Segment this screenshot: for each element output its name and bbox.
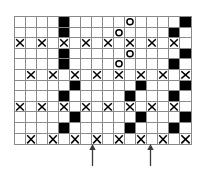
cell-blank[interactable]: [169, 70, 180, 81]
cross-stitch-cell[interactable]: [48, 70, 59, 81]
cross-stitch-cell[interactable]: [180, 70, 191, 81]
cell-blank[interactable]: [180, 38, 191, 49]
cell-blank[interactable]: [92, 28, 103, 39]
cell-blank[interactable]: [70, 17, 81, 28]
filled-square-cell[interactable]: [125, 123, 136, 134]
cell-blank[interactable]: [81, 59, 92, 70]
cell-blank[interactable]: [15, 28, 26, 39]
filled-square-cell[interactable]: [169, 28, 180, 39]
cell-blank[interactable]: [37, 59, 48, 70]
cell-blank[interactable]: [180, 102, 191, 113]
filled-square-cell[interactable]: [180, 49, 191, 60]
cell-blank[interactable]: [26, 102, 37, 113]
cell-blank[interactable]: [147, 123, 158, 134]
cell-blank[interactable]: [125, 59, 136, 70]
cell-blank[interactable]: [70, 49, 81, 60]
cell-blank[interactable]: [92, 38, 103, 49]
cell-blank[interactable]: [92, 17, 103, 28]
cell-blank[interactable]: [92, 91, 103, 102]
cell-blank[interactable]: [114, 123, 125, 134]
cross-stitch-cell[interactable]: [70, 70, 81, 81]
cell-blank[interactable]: [59, 70, 70, 81]
cell-blank[interactable]: [103, 28, 114, 39]
cell-blank[interactable]: [81, 17, 92, 28]
cell-blank[interactable]: [48, 28, 59, 39]
open-circle-cell[interactable]: [114, 59, 125, 70]
cell-blank[interactable]: [15, 91, 26, 102]
cell-blank[interactable]: [158, 91, 169, 102]
cell-blank[interactable]: [147, 91, 158, 102]
cross-stitch-cell[interactable]: [103, 38, 114, 49]
cross-stitch-cell[interactable]: [59, 38, 70, 49]
cell-blank[interactable]: [180, 123, 191, 134]
cell-blank[interactable]: [125, 28, 136, 39]
cell-blank[interactable]: [15, 81, 26, 92]
filled-square-cell[interactable]: [180, 81, 191, 92]
cell-blank[interactable]: [103, 81, 114, 92]
cell-blank[interactable]: [125, 70, 136, 81]
cell-blank[interactable]: [15, 49, 26, 60]
filled-square-cell[interactable]: [59, 17, 70, 28]
cross-stitch-cell[interactable]: [26, 70, 37, 81]
cell-blank[interactable]: [136, 123, 147, 134]
cell-blank[interactable]: [92, 112, 103, 123]
cell-blank[interactable]: [92, 59, 103, 70]
cell-blank[interactable]: [158, 112, 169, 123]
cell-blank[interactable]: [81, 112, 92, 123]
cell-blank[interactable]: [158, 102, 169, 113]
cell-blank[interactable]: [169, 81, 180, 92]
cell-blank[interactable]: [103, 59, 114, 70]
cell-blank[interactable]: [81, 49, 92, 60]
cross-stitch-cell[interactable]: [158, 70, 169, 81]
cell-blank[interactable]: [147, 28, 158, 39]
cell-blank[interactable]: [26, 91, 37, 102]
cell-blank[interactable]: [37, 123, 48, 134]
cross-stitch-cell[interactable]: [92, 70, 103, 81]
cell-blank[interactable]: [81, 123, 92, 134]
cell-blank[interactable]: [114, 112, 125, 123]
cell-blank[interactable]: [114, 81, 125, 92]
cell-blank[interactable]: [48, 102, 59, 113]
cross-stitch-cell[interactable]: [169, 102, 180, 113]
cell-blank[interactable]: [147, 112, 158, 123]
cell-blank[interactable]: [158, 38, 169, 49]
open-circle-cell[interactable]: [114, 28, 125, 39]
cell-blank[interactable]: [26, 123, 37, 134]
cell-blank[interactable]: [180, 28, 191, 39]
cross-stitch-cell[interactable]: [81, 102, 92, 113]
filled-square-cell[interactable]: [180, 17, 191, 28]
cell-blank[interactable]: [158, 28, 169, 39]
cross-stitch-cell[interactable]: [147, 102, 158, 113]
cell-blank[interactable]: [59, 81, 70, 92]
cell-blank[interactable]: [136, 17, 147, 28]
cell-blank[interactable]: [37, 70, 48, 81]
filled-square-cell[interactable]: [59, 49, 70, 60]
cell-blank[interactable]: [37, 91, 48, 102]
cell-blank[interactable]: [92, 123, 103, 134]
cell-blank[interactable]: [48, 49, 59, 60]
cell-blank[interactable]: [48, 59, 59, 70]
cell-blank[interactable]: [180, 91, 191, 102]
cell-blank[interactable]: [26, 38, 37, 49]
cell-blank[interactable]: [70, 102, 81, 113]
cell-blank[interactable]: [15, 112, 26, 123]
cell-blank[interactable]: [26, 112, 37, 123]
cell-blank[interactable]: [136, 28, 147, 39]
cell-blank[interactable]: [169, 17, 180, 28]
cell-blank[interactable]: [81, 91, 92, 102]
cell-blank[interactable]: [103, 112, 114, 123]
cell-blank[interactable]: [147, 81, 158, 92]
cell-blank[interactable]: [136, 38, 147, 49]
cell-blank[interactable]: [26, 81, 37, 92]
cell-blank[interactable]: [26, 59, 37, 70]
cell-blank[interactable]: [70, 38, 81, 49]
cell-blank[interactable]: [37, 49, 48, 60]
cross-stitch-cell[interactable]: [147, 38, 158, 49]
cell-blank[interactable]: [37, 28, 48, 39]
filled-square-cell[interactable]: [136, 81, 147, 92]
filled-square-cell[interactable]: [70, 112, 81, 123]
cell-blank[interactable]: [103, 91, 114, 102]
cell-blank[interactable]: [81, 28, 92, 39]
cross-stitch-cell[interactable]: [125, 38, 136, 49]
cell-blank[interactable]: [70, 91, 81, 102]
